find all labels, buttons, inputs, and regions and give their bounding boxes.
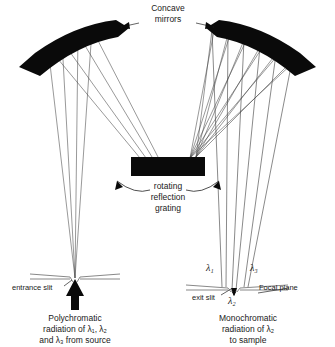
source-caption: Polychromatic radiation of λ₁, λ₂ and λ₃…	[8, 313, 142, 346]
grating-label-line3: grating	[155, 203, 181, 213]
concave-mirrors-label-line2: mirrors	[155, 14, 181, 24]
output-caption-line3: to sample	[230, 335, 267, 345]
source-caption-line2: radiation of λ₁, λ₂	[43, 324, 107, 334]
output-caption-line1: Monochromatic	[219, 313, 277, 323]
concave-mirrors-label: Concave mirrors	[140, 3, 196, 25]
lambda1-label: λ₁	[206, 262, 214, 273]
grating-label: rotating reflection grating	[128, 181, 208, 214]
right-concave-mirror	[206, 20, 316, 76]
output-caption-line2: radiation of λ₂	[222, 324, 274, 334]
source-input-arrow	[66, 279, 84, 310]
source-caption-line1: Polychromatic	[48, 313, 101, 323]
lambda3-label: λ₃	[250, 262, 258, 273]
diagram-canvas	[0, 0, 335, 347]
entrance-slit-label: entrance slit	[12, 282, 52, 293]
grating-label-line1: rotating	[154, 181, 182, 191]
grating-label-line2: reflection	[151, 192, 186, 202]
optical-monochromator-diagram: Concave mirrors rotating reflection grat…	[0, 0, 335, 347]
exit-slit-label: exit slit	[192, 292, 215, 303]
output-caption: Monochromatic radiation of λ₂ to sample	[186, 313, 310, 346]
source-caption-line3: and λ₃ from source	[39, 335, 111, 345]
focused-beam-rays	[212, 30, 292, 290]
entrance-slit-leader	[64, 280, 72, 286]
lambda2-label: λ₂	[228, 295, 236, 306]
input-beam-rays	[48, 29, 92, 278]
concave-mirrors-label-line1: Concave	[151, 3, 185, 13]
focal-plane-label: Focal plane	[259, 282, 298, 293]
left-concave-mirror	[19, 20, 129, 76]
reflection-grating-block	[131, 157, 205, 176]
